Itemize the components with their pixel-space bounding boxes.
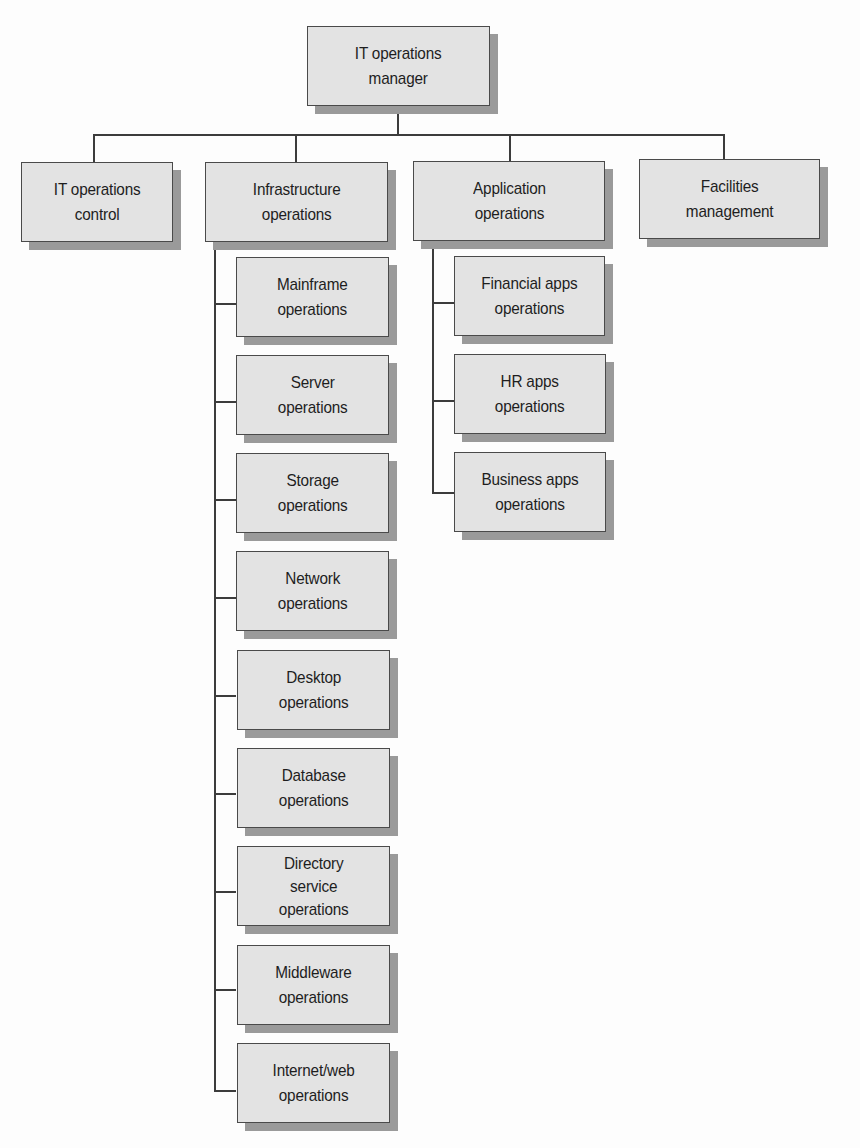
connector-infra-child	[214, 989, 236, 991]
node-label: Network operations	[278, 566, 348, 616]
node-hr-apps-operations: HR apps operations	[454, 354, 606, 434]
node-financial-apps-operations: Financial apps operations	[454, 256, 605, 336]
node-network-operations: Network operations	[236, 551, 389, 631]
node-label: HR apps operations	[495, 369, 565, 419]
node-label: Application operations	[473, 176, 546, 226]
node-label: Storage operations	[278, 468, 348, 518]
node-label: Financial apps operations	[481, 271, 577, 321]
node-internet-web-operations: Internet/web operations	[237, 1043, 390, 1123]
node-facilities-management: Facilities management	[639, 159, 820, 239]
connector-infra-child	[214, 597, 236, 599]
node-database-operations: Database operations	[237, 748, 390, 828]
node-application-operations: Application operations	[413, 161, 605, 241]
node-label: Internet/web operations	[272, 1058, 354, 1108]
node-label: Server operations	[278, 370, 348, 420]
connector-app-child	[432, 302, 454, 304]
node-label: Infrastructure operations	[253, 177, 341, 227]
connector-infra-child	[214, 303, 236, 305]
node-label: Mainframe operations	[277, 272, 348, 322]
connector-infra-child	[214, 695, 236, 697]
connector-infra-child	[214, 793, 236, 795]
node-infrastructure-operations: Infrastructure operations	[205, 162, 388, 242]
org-chart: IT operations manager IT operations cont…	[0, 0, 860, 1148]
node-mainframe-operations: Mainframe operations	[236, 257, 389, 337]
connector-infra-child	[214, 1090, 236, 1092]
connector-to-facilities	[723, 134, 725, 162]
node-it-operations-control: IT operations control	[21, 162, 173, 242]
node-label: Database operations	[279, 763, 349, 813]
connector-infra-child	[214, 401, 236, 403]
connector-application-spine	[432, 241, 434, 494]
node-directory-service-operations: Directory service operations	[237, 846, 390, 926]
node-label: Desktop operations	[279, 665, 349, 715]
node-it-operations-manager: IT operations manager	[307, 26, 490, 106]
node-label: IT operations control	[54, 177, 141, 227]
node-label: Middleware operations	[275, 960, 351, 1010]
connector-app-child	[432, 400, 454, 402]
connector-to-it-ops-control	[93, 134, 95, 162]
connector-to-application	[509, 134, 511, 162]
connector-infrastructure-spine	[214, 241, 216, 1092]
connector-root-down	[397, 105, 399, 136]
node-storage-operations: Storage operations	[236, 453, 389, 533]
connector-infra-child	[214, 499, 236, 501]
node-server-operations: Server operations	[236, 355, 389, 435]
node-desktop-operations: Desktop operations	[237, 650, 390, 730]
connector-to-infrastructure	[295, 134, 297, 162]
node-middleware-operations: Middleware operations	[237, 945, 390, 1025]
connector-infra-child	[214, 891, 236, 893]
connector-level2-bar	[93, 134, 725, 136]
connector-app-child	[432, 492, 454, 494]
node-label: Facilities management	[686, 174, 774, 224]
node-label: IT operations manager	[355, 41, 442, 91]
node-label: Directory service operations	[279, 852, 349, 921]
node-label: Business apps operations	[481, 467, 578, 517]
node-business-apps-operations: Business apps operations	[454, 452, 606, 532]
